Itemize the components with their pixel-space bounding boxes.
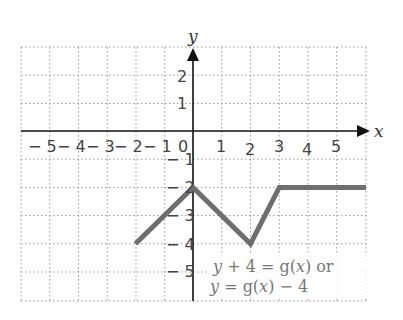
x-tick: 5: [331, 137, 341, 156]
chart: x y − 5 − 4 − 3 − 2 − 1 0 1 2 3 4 5 2 1 …: [0, 0, 403, 320]
y-tick: 2: [177, 67, 187, 86]
x-tick: 4: [302, 140, 312, 159]
x-tick: − 5: [28, 137, 57, 156]
x-axis-label: x: [374, 121, 384, 141]
y-tick: − 3: [166, 206, 195, 225]
y-tick: 1: [177, 94, 187, 113]
y-tick: − 5: [166, 262, 195, 281]
x-tick: − 3: [86, 137, 115, 156]
y-tick: − 2: [166, 178, 195, 197]
y-tick: − 4: [166, 235, 195, 254]
y-tick-labels: 2 1 − 1 − 2 − 3 − 4 − 5: [166, 67, 195, 281]
x-tick: − 2: [114, 137, 143, 156]
y-axis-arrow-icon: [187, 48, 199, 61]
x-tick: 3: [274, 137, 284, 156]
y-tick: − 1: [166, 150, 195, 169]
annotation-line-1: y + 4 = g(x) or: [212, 257, 334, 276]
annotation-line-2: y = g(x) − 4: [209, 277, 308, 296]
x-axis-arrow-icon: [357, 125, 370, 137]
x-tick: − 4: [57, 137, 86, 156]
y-axis-label: y: [187, 26, 198, 46]
x-tick: 2: [245, 140, 255, 159]
x-tick: 1: [216, 137, 226, 156]
